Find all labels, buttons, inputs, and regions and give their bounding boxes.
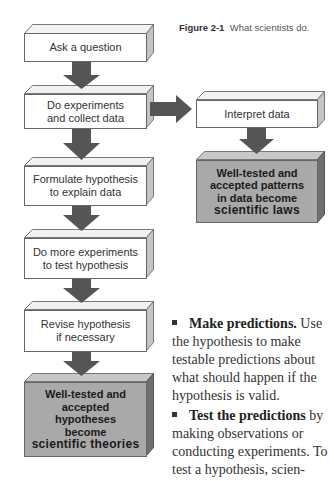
theories-line1: Well-tested and <box>45 388 126 400</box>
test-predictions-heading: Test the predictions <box>189 408 306 423</box>
laws-line3: in data become <box>217 192 297 204</box>
down-arrow-icon <box>63 204 100 231</box>
theories-line5: scientific theories <box>32 437 140 451</box>
box-top-face <box>25 86 154 94</box>
bullet-icon <box>172 412 177 417</box>
paragraph-test-predictions: Test the predictions by making observati… <box>172 407 332 479</box>
laws-line4: scientific laws <box>214 203 300 217</box>
bullet-icon <box>172 320 177 325</box>
laws-line1: Well-tested and <box>216 167 297 179</box>
down-arrow-icon <box>63 61 100 89</box>
step-hypothesis-line2: to explain data <box>50 186 122 198</box>
step-ask-label: Ask a question <box>49 41 121 54</box>
box-top-face <box>25 230 154 238</box>
step-more-line2: to test hypothesis <box>43 259 129 271</box>
box-side-face <box>147 158 154 205</box>
box-top-face <box>25 374 154 382</box>
paragraph-make-predictions: Make predictions. Use the hypothesis to … <box>172 315 332 405</box>
box-side-face <box>147 374 154 456</box>
step-experiment-line1: Do experiments <box>47 99 124 111</box>
theories-line2: accepted <box>62 401 110 413</box>
box-side-face <box>147 302 154 351</box>
box-top-face <box>197 152 325 160</box>
step-revise-line2: if necessary <box>56 331 115 343</box>
body-text: Make predictions. Use the hypothesis to … <box>172 315 332 481</box>
theories-line4: become <box>65 426 107 438</box>
step-more-line1: Do more experiments <box>33 246 138 258</box>
interpret-data-label: Interpret data <box>224 108 289 121</box>
down-arrow-icon <box>239 127 274 154</box>
down-arrow-icon <box>63 127 100 160</box>
laws-line2: accepted patterns <box>210 179 304 191</box>
box-top-face <box>25 158 154 166</box>
step-revise-line1: Revise hypothesis <box>41 318 130 330</box>
down-arrow-icon <box>63 350 100 376</box>
down-arrow-icon <box>63 277 100 303</box>
box-side-face <box>318 152 325 223</box>
make-predictions-heading: Make predictions. <box>189 316 297 331</box>
box-top-face <box>25 302 154 310</box>
box-top-face <box>197 92 325 100</box>
right-arrow-icon <box>150 95 192 123</box>
step-experiment-line2: and collect data <box>47 112 124 124</box>
step-hypothesis-line1: Formulate hypothesis <box>33 173 138 185</box>
box-side-face <box>147 230 154 278</box>
theories-line3: hypotheses <box>55 413 116 425</box>
